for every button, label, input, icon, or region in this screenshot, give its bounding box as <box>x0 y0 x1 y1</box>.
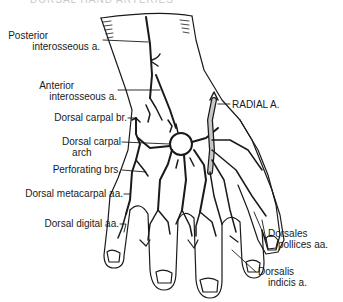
label-dorsalis-indicis: Dorsalis indicis a. <box>258 266 307 288</box>
label-dorsal-carpal-br: Dorsal carpal br. <box>54 112 127 123</box>
label-posterior-interosseous: Posterior interosseous a. <box>32 30 100 52</box>
label-radial-a: RADIAL A. <box>232 99 279 110</box>
label-line: Anterior <box>39 80 117 91</box>
label-dorsal-carpal-arch: Dorsal carpal arch <box>62 136 121 158</box>
label-anterior-interosseous: Anterior interosseous a. <box>49 80 117 102</box>
label-line: Dorsalis <box>258 266 307 277</box>
label-line: pollices aa. <box>278 239 328 250</box>
label-line: arch <box>72 147 121 158</box>
label-line: Dorsal carpal <box>62 136 121 147</box>
label-line: Dorsales <box>268 228 328 239</box>
leader-perforating <box>122 170 146 172</box>
label-line: interosseous a. <box>49 91 117 102</box>
label-dorsal-metacarpal: Dorsal metacarpal aa. <box>25 188 123 199</box>
label-dorsales-pollices: Dorsales pollices aa. <box>268 228 328 250</box>
label-dorsal-digital: Dorsal digital aa. <box>45 218 119 229</box>
label-perforating-brs: Perforating brs. <box>53 164 121 175</box>
label-line: indicis a. <box>268 277 307 288</box>
label-line: Posterior <box>8 30 100 41</box>
label-line: interosseous a. <box>32 41 100 52</box>
leader-dorsales-pollices <box>254 212 266 240</box>
